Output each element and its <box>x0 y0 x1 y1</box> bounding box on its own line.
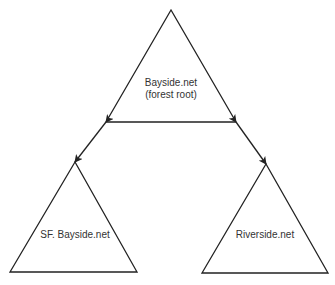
trust-arrow-root-riverside <box>236 122 266 164</box>
root-domain-role: (forest root) <box>131 89 211 101</box>
diagram-shapes <box>0 0 335 285</box>
riverside-domain-triangle <box>202 164 328 273</box>
root-domain-triangle <box>106 10 236 122</box>
root-domain-name: Bayside.net <box>131 77 211 89</box>
sf-domain-label: SF. Bayside.net <box>30 229 120 241</box>
trust-arrow-root-sf <box>75 122 106 162</box>
forest-diagram: Bayside.net (forest root) SF. Bayside.ne… <box>0 0 335 285</box>
root-domain-label: Bayside.net (forest root) <box>131 77 211 101</box>
sf-domain-triangle <box>10 162 137 272</box>
riverside-domain-label: Riverside.net <box>225 229 305 241</box>
